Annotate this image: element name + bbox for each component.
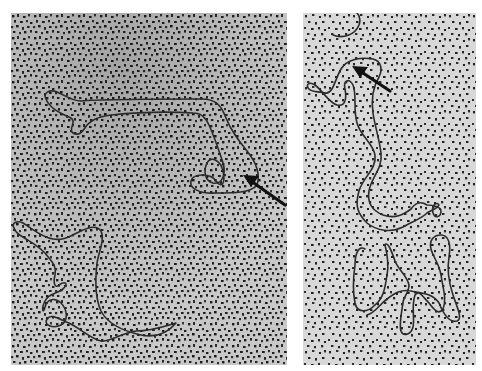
darker-upper-region: [11, 13, 287, 365]
micrograph-figure: [0, 0, 482, 371]
micrograph-panel-left: [11, 13, 287, 365]
speckled-background: [303, 13, 476, 365]
micrograph-panel-right: [303, 13, 476, 365]
panel-right-image: [303, 13, 476, 365]
panel-left-image: [11, 13, 287, 365]
